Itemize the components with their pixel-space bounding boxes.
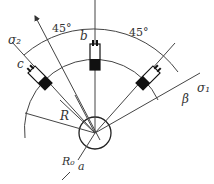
label-sigma2: σ₂ xyxy=(8,33,21,47)
gauge-b xyxy=(90,40,100,70)
label-angle-right: 45° xyxy=(129,26,149,39)
label-angle-left: 45° xyxy=(52,22,72,35)
label-hole-radius: R₀ xyxy=(61,155,75,168)
label-sigma1: σ₁ xyxy=(197,81,210,95)
label-gauge-b: b xyxy=(80,29,88,43)
label-gauge-c: c xyxy=(17,57,24,71)
label-radius: R xyxy=(59,109,69,123)
label-beta: β xyxy=(181,92,189,106)
rosette-diagram: σ₂ 45° b 45° c β σ₁ R R₀ a xyxy=(0,0,214,184)
label-gauge-a: a xyxy=(78,160,85,173)
